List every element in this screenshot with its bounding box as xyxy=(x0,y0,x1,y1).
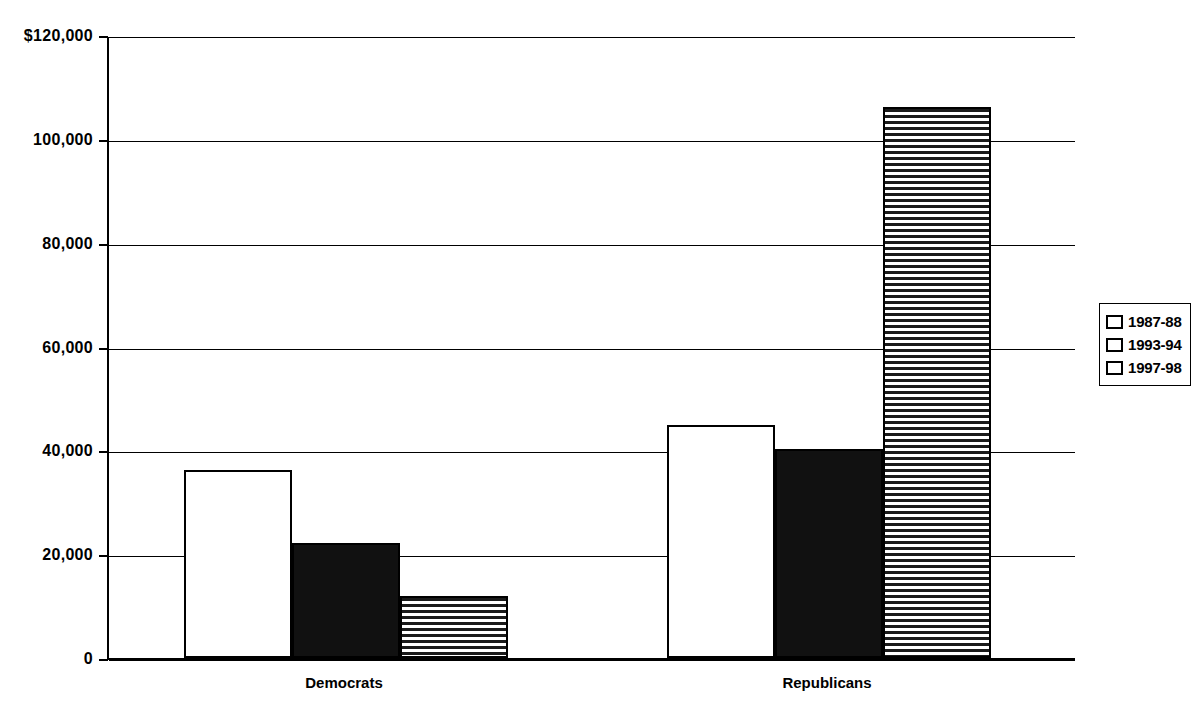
legend-item: 1997-98 xyxy=(1106,356,1185,379)
gridline xyxy=(109,37,1075,38)
bar-republicans-1987-88 xyxy=(667,425,775,658)
y-axis-tick-label: $120,000 xyxy=(24,27,93,45)
legend-item-label: 1993-94 xyxy=(1128,336,1182,353)
bar-democrats-1997-98 xyxy=(400,596,508,658)
legend-swatch-icon xyxy=(1106,361,1123,375)
gridline xyxy=(109,660,1075,661)
y-axis-tick-label: 40,000 xyxy=(42,442,93,460)
y-axis-tick-label: 80,000 xyxy=(42,235,93,253)
plot-area xyxy=(107,37,1075,660)
y-axis-tick-label: 0 xyxy=(84,650,93,668)
legend-item-label: 1987-88 xyxy=(1128,313,1182,330)
bar-chart: $120,000100,00080,00060,00040,00020,0000… xyxy=(0,0,1203,714)
x-axis-category-label: Republicans xyxy=(782,674,871,691)
legend-item: 1987-88 xyxy=(1106,310,1185,333)
y-axis-tick-label: 100,000 xyxy=(33,131,93,149)
y-axis-tick-label: 60,000 xyxy=(42,339,93,357)
x-axis-category-label: Democrats xyxy=(305,674,383,691)
legend-swatch-icon xyxy=(1106,338,1123,352)
legend-swatch-icon xyxy=(1106,315,1123,329)
y-axis-tick-label: 20,000 xyxy=(42,546,93,564)
legend-item-label: 1997-98 xyxy=(1128,359,1182,376)
legend-item: 1993-94 xyxy=(1106,333,1185,356)
bar-republicans-1993-94 xyxy=(775,449,883,658)
legend: 1987-881993-941997-98 xyxy=(1099,303,1191,386)
bar-democrats-1993-94 xyxy=(292,543,400,658)
bar-democrats-1987-88 xyxy=(184,470,292,658)
bar-republicans-1997-98 xyxy=(883,107,991,658)
